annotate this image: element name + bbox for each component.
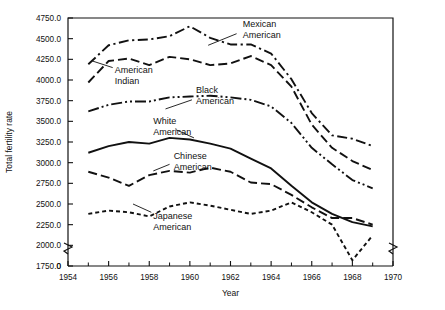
series-label-white-american: American — [153, 127, 191, 137]
series-leader-line-japanese-american — [133, 204, 151, 212]
series-label-mexican-american: American — [243, 30, 281, 40]
fertility-rate-line-chart: 1750.02000.02250.02500.02750.03000.03250… — [0, 0, 445, 310]
series-line-japanese-american — [88, 202, 372, 260]
chart-container: 1750.02000.02250.02500.02750.03000.03250… — [0, 0, 445, 310]
series-label-chinese-american: Chinese — [174, 151, 207, 161]
y-axis-tick-label: 4000.0 — [36, 76, 61, 85]
y-axis-tick-label: 3500.0 — [36, 117, 61, 126]
series-label-black-american: American — [196, 96, 234, 106]
series-label-japanese-american: American — [153, 222, 191, 232]
y-axis-tick-label: 2250.0 — [36, 221, 61, 230]
x-axis-title: Year — [222, 288, 239, 298]
y-axis-tick-label: 2000.0 — [36, 241, 61, 250]
x-axis-tick-label: 1954 — [59, 273, 78, 282]
x-axis-tick-label: 1964 — [262, 273, 281, 282]
y-axis-tick-label: 3250.0 — [36, 138, 61, 147]
y-axis-tick-label: 3000.0 — [36, 159, 61, 168]
y-axis-title: Total fertility rate — [4, 111, 14, 173]
y-axis-tick-label: 4500.0 — [36, 35, 61, 44]
x-axis-tick-label: 1968 — [343, 273, 362, 282]
series-label-american-indian: American — [115, 65, 153, 75]
series-label-white-american: White — [153, 116, 176, 126]
x-axis-tick-label: 1962 — [221, 273, 240, 282]
x-axis-tick-label: 1960 — [181, 273, 200, 282]
y-axis-tick-label: 4250.0 — [36, 55, 61, 64]
series-line-chinese-american — [88, 168, 372, 225]
y-axis-tick-label: 3750.0 — [36, 97, 61, 106]
x-axis-tick-label: 1956 — [100, 273, 119, 282]
x-axis-tick-label: 1966 — [303, 273, 322, 282]
y-axis-tick-label: 2750.0 — [36, 179, 61, 188]
y-axis-tick-label: 2500.0 — [36, 200, 61, 209]
series-label-black-american: Black — [196, 85, 219, 95]
series-label-american-indian: Indian — [115, 76, 140, 86]
x-axis-tick-label: 1958 — [140, 273, 159, 282]
series-label-chinese-american: American — [174, 162, 212, 172]
y-axis-tick-label: 4750.0 — [36, 14, 61, 23]
y-axis-zero-label: 0 — [56, 262, 61, 271]
series-leader-line-black-american — [166, 100, 192, 109]
series-leader-line-chinese-american — [153, 164, 169, 171]
series-label-mexican-american: Mexican — [243, 19, 277, 29]
series-label-japanese-american: Japanese — [153, 211, 192, 221]
x-axis-tick-label: 1970 — [384, 273, 403, 282]
